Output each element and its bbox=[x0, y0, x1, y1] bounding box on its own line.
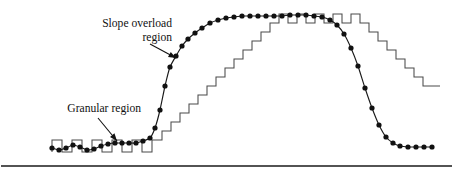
sample-dot bbox=[429, 144, 434, 149]
sample-dot bbox=[311, 13, 316, 18]
sample-dot bbox=[327, 17, 332, 22]
sample-dot bbox=[287, 12, 292, 17]
sample-dot bbox=[162, 83, 167, 88]
sample-dot bbox=[152, 125, 157, 130]
sample-dot bbox=[49, 145, 54, 150]
sample-dot bbox=[247, 13, 252, 18]
sample-dot bbox=[140, 138, 145, 143]
sample-dot bbox=[295, 12, 300, 17]
sample-dot bbox=[390, 140, 395, 145]
delta-modulation-figure: Slope overloadregionGranular region bbox=[0, 0, 453, 175]
sample-dot bbox=[63, 145, 68, 150]
sample-dot bbox=[279, 13, 284, 18]
sample-dot bbox=[77, 144, 82, 149]
sample-dot bbox=[70, 142, 75, 147]
sample-dot bbox=[383, 134, 388, 139]
sample-dot bbox=[105, 141, 110, 146]
sample-dot bbox=[56, 147, 61, 152]
sample-dot bbox=[91, 146, 96, 151]
sample-dot bbox=[199, 25, 204, 30]
sample-dot bbox=[192, 30, 197, 35]
sample-dot bbox=[405, 144, 410, 149]
sample-dot bbox=[341, 31, 346, 36]
sample-dot bbox=[98, 143, 103, 148]
sample-dot bbox=[215, 17, 220, 22]
sample-dot bbox=[255, 13, 260, 18]
sample-dot bbox=[223, 15, 228, 20]
sample-dot bbox=[112, 140, 117, 145]
sample-dot bbox=[157, 107, 162, 112]
sample-dot bbox=[239, 13, 244, 18]
sample-dot bbox=[369, 105, 374, 110]
sample-dot bbox=[207, 20, 212, 25]
sample-dot bbox=[119, 140, 124, 145]
sample-dot bbox=[185, 36, 190, 41]
sample-dot bbox=[263, 13, 268, 18]
sample-dot bbox=[397, 143, 402, 148]
sample-dot bbox=[147, 135, 152, 140]
sample-dot bbox=[413, 144, 418, 149]
sample-dot bbox=[362, 85, 367, 90]
sample-dot bbox=[355, 63, 360, 68]
sample-dot bbox=[167, 64, 172, 69]
sample-dot bbox=[126, 140, 131, 145]
annotation-label-granular: Granular region bbox=[67, 102, 141, 115]
sample-dot bbox=[421, 144, 426, 149]
sample-dot bbox=[319, 14, 324, 19]
sample-dot bbox=[376, 122, 381, 127]
sample-dot bbox=[303, 12, 308, 17]
sample-dot bbox=[271, 13, 276, 18]
sample-dot bbox=[84, 147, 89, 152]
figure-container: Slope overloadregionGranular region bbox=[0, 0, 453, 175]
sample-dot bbox=[179, 43, 184, 48]
sample-dot bbox=[133, 140, 138, 145]
sample-dot bbox=[348, 45, 353, 50]
sample-dot bbox=[334, 22, 339, 27]
sample-dot bbox=[231, 14, 236, 19]
